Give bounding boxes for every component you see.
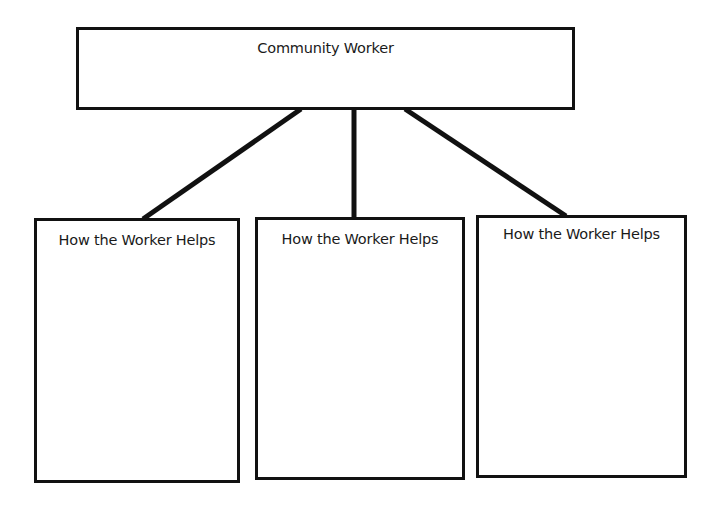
community-worker-label: Community Worker <box>79 40 572 56</box>
how-worker-helps-box-3[interactable]: How the Worker Helps <box>476 215 687 478</box>
how-worker-helps-label-2: How the Worker Helps <box>258 231 462 247</box>
connector-left <box>143 109 301 219</box>
community-worker-box[interactable]: Community Worker <box>76 27 575 110</box>
how-worker-helps-box-2[interactable]: How the Worker Helps <box>255 217 465 480</box>
how-worker-helps-box-1[interactable]: How the Worker Helps <box>34 218 240 483</box>
how-worker-helps-label-1: How the Worker Helps <box>37 232 237 248</box>
connector-right <box>405 109 566 216</box>
how-worker-helps-label-3: How the Worker Helps <box>479 226 684 242</box>
